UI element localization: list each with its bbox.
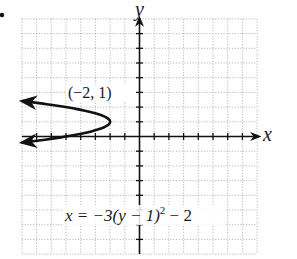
equation-label: x = −3(y − 1)2 − 2	[64, 204, 192, 225]
y-axis-label: y	[133, 0, 144, 21]
bullet-marker	[0, 13, 4, 17]
parabola-figure: y x (−2, 1) x = −3(y − 1)2 − 2	[0, 0, 297, 259]
plot-area: y x (−2, 1) x = −3(y − 1)2 − 2	[0, 0, 297, 259]
x-axis-label: x	[262, 123, 272, 145]
equation-main: x = −3(y − 1)	[64, 206, 160, 225]
vertex-label: (−2, 1)	[68, 84, 112, 102]
equation-tail: − 2	[165, 206, 192, 225]
